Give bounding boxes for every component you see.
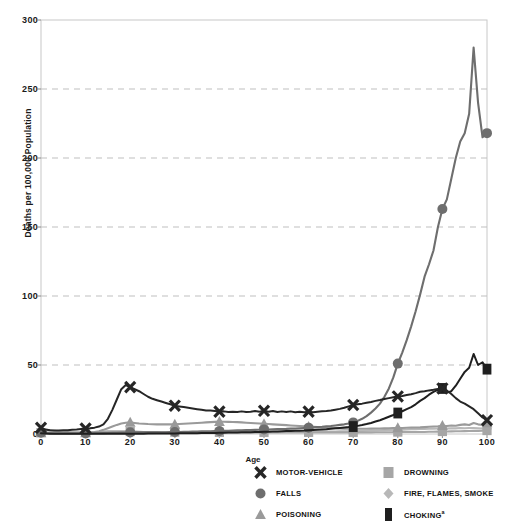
plot-area [0, 0, 506, 529]
series-marker [437, 204, 447, 214]
series-marker [259, 425, 269, 435]
chart-legend: MOTOR-VEHICLEDROWNINGFALLSFIRE, FLAMES, … [252, 463, 506, 525]
x-icon [252, 464, 269, 481]
series-falls [36, 48, 492, 439]
legend-label: POISONING [276, 510, 321, 519]
series-marker [349, 421, 358, 432]
triangle-icon [252, 506, 269, 523]
legend-item[interactable]: POISONING [252, 505, 321, 523]
square-dark-icon [380, 506, 397, 523]
legend-label: MOTOR-VEHICLE [276, 468, 343, 477]
series-marker [125, 382, 135, 392]
legend-item[interactable]: FALLS [252, 484, 301, 502]
legend-item[interactable]: MOTOR-VEHICLE [252, 463, 343, 481]
series-marker [482, 128, 492, 138]
legend-label: CHOKINGa [404, 509, 445, 520]
series-marker [125, 427, 135, 437]
legend-label: FALLS [276, 489, 301, 498]
chart-figure: Deaths per 100,000 Population 0501001502… [0, 0, 506, 529]
legend-label: FIRE, FLAMES, SMOKE [404, 489, 494, 498]
legend-footnote-marker: a [442, 509, 445, 515]
series-marker [483, 364, 492, 375]
legend-item[interactable]: DROWNING [380, 463, 449, 481]
series-marker [214, 426, 224, 436]
series-marker [393, 359, 403, 369]
circle-icon [252, 485, 269, 502]
square-icon [380, 464, 397, 481]
legend-item[interactable]: FIRE, FLAMES, SMOKE [380, 484, 494, 502]
series-marker [170, 427, 180, 437]
series-choking [41, 354, 491, 434]
diamond-icon [380, 485, 397, 502]
series-line [41, 48, 487, 434]
legend-label: DROWNING [404, 468, 449, 477]
series-marker [393, 408, 402, 419]
legend-item[interactable]: CHOKINGa [380, 505, 445, 523]
